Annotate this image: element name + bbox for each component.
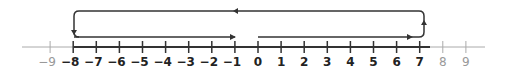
tick-label: 1 [277,55,285,69]
loop-left-arrow-icon [233,8,238,14]
tick-label: −8 [61,55,79,69]
tick-label: −1 [223,55,241,69]
number-line-diagram: −9−8−7−6−5−4−3−2−10123456789 [0,0,506,72]
tick-label: −4 [153,55,171,69]
tick-label: 5 [369,55,377,69]
tick-label: −6 [107,55,125,69]
tick-label: −7 [84,55,102,69]
tick-label: 2 [300,55,308,69]
tick-label: −3 [176,55,194,69]
tick-label: 9 [462,55,470,69]
loop-up-arrow-icon [421,20,427,25]
loop-return-path [74,11,424,37]
loop-down-arrow-icon [71,30,77,35]
tick-label: 4 [346,55,354,69]
tick-label: 6 [392,55,400,69]
tick-label: 8 [439,55,447,69]
tick-label: −5 [130,55,148,69]
tick-label-group: −9−8−7−6−5−4−3−2−10123456789 [38,55,469,69]
tick-label: −9 [38,55,56,69]
tick-label: 3 [323,55,331,69]
tick-label: 0 [254,55,262,69]
tick-label: 7 [416,55,424,69]
tick-label: −2 [200,55,218,69]
